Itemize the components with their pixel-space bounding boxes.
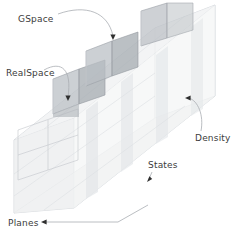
label-states: States	[148, 160, 178, 170]
density-slab	[156, 46, 168, 144]
annotation-gspace: GSpace	[18, 10, 116, 40]
density-slab	[191, 18, 203, 116]
annotation-states: States	[147, 160, 178, 182]
label-realspace: RealSpace	[6, 68, 55, 78]
label-gspace: GSpace	[18, 14, 54, 24]
density-slab	[86, 101, 98, 199]
label-density: Density	[195, 133, 231, 143]
figure-canvas: GSpace RealSpace Density States Planes	[0, 0, 241, 234]
label-planes: Planes	[8, 218, 39, 228]
density-slab	[121, 73, 133, 172]
diagram-svg: GSpace RealSpace Density States Planes	[0, 0, 241, 234]
